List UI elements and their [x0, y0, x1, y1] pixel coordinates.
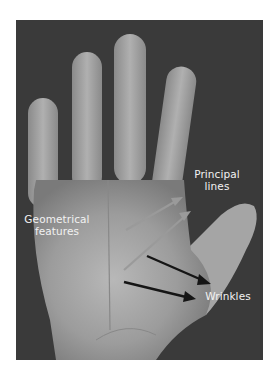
middle-finger [114, 34, 146, 184]
ring-finger [72, 52, 102, 192]
wrinkles-label: Wrinkles [202, 290, 254, 302]
geometrical-features-label: Geometrical features [18, 213, 96, 237]
principal-lines-label: Principal lines [186, 168, 248, 192]
palm [33, 180, 211, 360]
palm-photo: Principal lines Geometrical features Wri… [16, 20, 263, 360]
